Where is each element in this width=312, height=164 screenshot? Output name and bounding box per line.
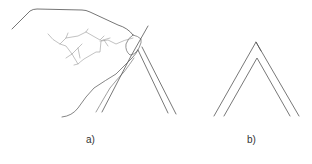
fold-line (256, 42, 261, 51)
chevron-outer (214, 42, 299, 116)
strip-outer (102, 26, 148, 112)
chevron-inner (224, 58, 290, 116)
hand-outline (12, 9, 133, 35)
panel-a-label: a) (86, 135, 95, 145)
hand-lower (62, 50, 138, 117)
strip-right-1 (138, 50, 168, 113)
panel-a-drawing (12, 9, 176, 117)
panel-b-label: b) (247, 135, 256, 145)
hand-lower-inner (96, 58, 134, 112)
diagram-figure: a) b) (0, 0, 312, 164)
panel-b-drawing (214, 42, 299, 116)
diagram-drawing (0, 0, 312, 164)
strip-right-2 (142, 47, 176, 114)
finger-wrinkles (48, 29, 133, 65)
